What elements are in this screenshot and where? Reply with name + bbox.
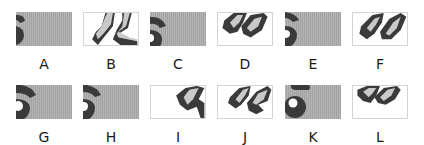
patch-b — [83, 12, 139, 46]
patch-f — [352, 12, 408, 46]
patch-h — [83, 85, 139, 119]
patch-label: B — [83, 56, 139, 72]
patch-a — [16, 12, 72, 46]
patch-label: J — [217, 129, 273, 145]
arc-shape-icon — [150, 12, 206, 46]
arc-shape-icon — [16, 85, 72, 119]
patch-k — [285, 85, 341, 119]
patch-label: G — [16, 129, 72, 145]
ring-shape-icon — [285, 85, 341, 119]
patch-label: D — [217, 56, 273, 72]
arc-shape-icon — [285, 12, 341, 46]
patch-g — [16, 85, 72, 119]
chevron-shapes-icon — [84, 13, 138, 45]
patch-e — [285, 12, 341, 46]
patch-label: A — [16, 56, 72, 72]
patch-l — [352, 85, 408, 119]
chevron-shapes-icon — [218, 13, 272, 45]
patch-label: C — [150, 56, 206, 72]
chevron-shapes-icon — [353, 86, 407, 118]
chevron-shape-icon — [151, 86, 205, 118]
chevron-shapes-icon — [353, 13, 407, 45]
arc-shape-icon — [16, 12, 72, 46]
patch-label: E — [285, 56, 341, 72]
patch-label: L — [352, 129, 408, 145]
arc-shape-icon — [83, 85, 139, 119]
patch-i — [150, 85, 206, 119]
patch-label: H — [83, 129, 139, 145]
patch-label: F — [352, 56, 408, 72]
patch-j — [217, 85, 273, 119]
patch-d — [217, 12, 273, 46]
patch-label: K — [285, 129, 341, 145]
patch-c — [150, 12, 206, 46]
patch-label: I — [150, 129, 206, 145]
chevron-shapes-icon — [218, 86, 272, 118]
